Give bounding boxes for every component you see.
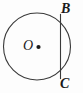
geometry-figure: B C O	[0, 0, 83, 93]
center-point-dot	[36, 45, 40, 49]
vertex-label-b: B	[61, 2, 70, 16]
center-label-o: O	[23, 39, 33, 53]
vertex-label-c: C	[60, 77, 69, 91]
geometry-canvas	[0, 0, 83, 93]
